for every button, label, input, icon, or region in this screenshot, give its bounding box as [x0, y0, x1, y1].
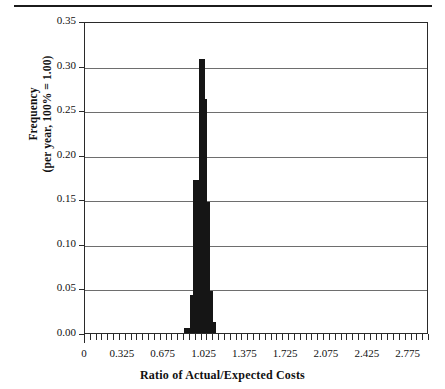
x-axis-minor-tick	[358, 334, 359, 340]
plot-area	[84, 22, 428, 334]
y-axis-tick-label: 0.35	[36, 14, 76, 26]
x-axis-minor-tick	[387, 334, 388, 340]
x-axis-minor-tick	[142, 334, 143, 340]
x-axis-minor-tick	[136, 334, 137, 340]
y-axis-tick-label: 0.20	[36, 148, 76, 160]
bar-series	[85, 23, 427, 333]
x-axis-minor-tick	[259, 334, 260, 340]
x-axis-minor-tick	[160, 334, 161, 340]
x-axis-minor-tick	[201, 334, 202, 340]
x-axis-minor-tick	[411, 334, 412, 340]
x-axis-minor-tick	[212, 334, 213, 340]
page-rule	[14, 5, 432, 7]
x-axis-minor-tick	[346, 334, 347, 340]
x-axis-minor-tick	[399, 334, 400, 340]
x-axis-minor-tick	[241, 334, 242, 340]
x-axis-minor-tick	[311, 334, 312, 340]
y-axis-tick-label: 0.30	[36, 59, 76, 71]
x-axis-minor-tick	[335, 334, 336, 340]
x-axis-minor-tick	[183, 334, 184, 340]
x-axis-minor-tick	[329, 334, 330, 340]
x-axis-minor-tick	[166, 334, 167, 340]
x-axis-minor-tick	[282, 334, 283, 340]
x-axis-minor-tick	[341, 334, 342, 340]
x-axis-minor-tick	[428, 334, 429, 340]
x-axis-minor-tick	[422, 334, 423, 340]
x-axis-minor-tick	[113, 334, 114, 340]
x-axis-minor-tick	[352, 334, 353, 340]
figure-container: Frequency (per year, 100% = 1.00) 0.000.…	[0, 0, 445, 389]
x-axis-minor-tick	[206, 334, 207, 340]
x-axis-minor-tick	[393, 334, 394, 340]
x-axis-minor-tick	[253, 334, 254, 340]
x-axis-minor-tick	[265, 334, 266, 340]
x-axis-minor-tick	[224, 334, 225, 340]
x-axis-minor-tick	[306, 334, 307, 340]
x-axis-minor-tick	[177, 334, 178, 340]
x-axis-minor-tick	[107, 334, 108, 340]
x-axis-minor-tick	[323, 334, 324, 340]
x-axis-minor-tick	[276, 334, 277, 340]
y-axis-tick-label: 0.15	[36, 192, 76, 204]
x-axis-minor-tick	[300, 334, 301, 340]
x-axis-minor-tick	[230, 334, 231, 340]
x-axis-minor-tick	[148, 334, 149, 340]
x-axis-minor-tick	[370, 334, 371, 340]
x-axis-minor-tick	[405, 334, 406, 340]
x-axis-minor-tick	[236, 334, 237, 340]
y-axis-tick-label: 0.00	[36, 326, 76, 338]
x-axis-minor-tick	[364, 334, 365, 340]
x-axis-title: Ratio of Actual/Expected Costs	[0, 368, 445, 383]
x-axis-minor-tick	[381, 334, 382, 340]
x-axis-minor-tick	[119, 334, 120, 340]
x-axis-minor-tick	[271, 334, 272, 340]
x-axis-minor-tick	[96, 334, 97, 340]
x-axis-major-tick	[84, 334, 85, 343]
y-axis-tick-label: 0.05	[36, 281, 76, 293]
x-axis-minor-tick	[294, 334, 295, 340]
x-axis-minor-tick	[131, 334, 132, 340]
x-axis-minor-tick	[125, 334, 126, 340]
x-axis-minor-tick	[376, 334, 377, 340]
x-axis-minor-tick	[171, 334, 172, 340]
x-axis-minor-tick	[154, 334, 155, 340]
bar	[210, 322, 216, 333]
x-axis-minor-tick	[317, 334, 318, 340]
y-axis-tick-label: 0.10	[36, 237, 76, 249]
x-axis-minor-tick	[195, 334, 196, 340]
x-axis-minor-tick	[189, 334, 190, 340]
x-axis-minor-tick	[288, 334, 289, 340]
x-axis-minor-tick	[218, 334, 219, 340]
x-axis-tick-label: 2.775	[378, 347, 438, 359]
x-axis-minor-tick	[416, 334, 417, 340]
x-axis-minor-tick	[101, 334, 102, 340]
x-axis-minor-tick	[247, 334, 248, 340]
y-axis-tick-label: 0.25	[36, 103, 76, 115]
x-axis-minor-tick	[90, 334, 91, 340]
